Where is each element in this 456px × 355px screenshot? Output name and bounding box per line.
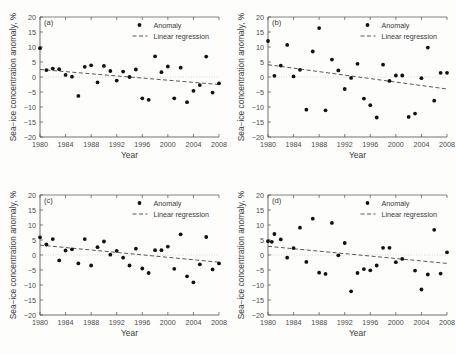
data-point (368, 103, 372, 107)
data-point (38, 46, 42, 50)
data-point (375, 116, 379, 120)
legend-marker-anomaly (366, 23, 370, 27)
data-point (44, 68, 48, 72)
data-point (115, 249, 119, 253)
x-tick-label: 2008 (439, 318, 455, 327)
linear-regression-line (40, 245, 219, 262)
data-point (292, 75, 296, 79)
data-point (266, 39, 270, 43)
subplot-panel-d: −20−15−10−505101520198019841988199219962… (228, 178, 456, 355)
data-point (279, 64, 283, 68)
data-point (134, 68, 138, 72)
x-tick-label: 1988 (83, 140, 99, 149)
data-point (413, 269, 417, 273)
y-tick-label: −10 (24, 281, 36, 290)
y-tick-label: 0 (32, 251, 36, 260)
y-tick-label: −5 (256, 266, 264, 275)
data-point (64, 73, 68, 77)
data-point (356, 62, 360, 66)
legend-label-anomaly: Anomaly (154, 21, 182, 30)
data-point (179, 232, 183, 236)
data-point (445, 71, 449, 75)
data-point (439, 272, 443, 276)
y-tick-label: −5 (28, 88, 36, 97)
x-tick-label: 1984 (286, 140, 302, 149)
data-point (172, 267, 176, 271)
x-tick-label: 2004 (185, 318, 201, 327)
data-point (134, 247, 138, 251)
y-axis-title: Sea−ice concentration anomaly, % (8, 190, 18, 319)
x-tick-label: 1984 (286, 318, 302, 327)
y-tick-label: 5 (32, 236, 36, 245)
y-tick-label: 20 (256, 191, 264, 200)
x-tick-label: 1988 (311, 140, 327, 149)
y-tick-label: −5 (28, 266, 36, 275)
x-tick-label: 1996 (362, 318, 378, 327)
data-point (211, 91, 215, 95)
plot-area-a: −20−15−10−505101520198019841988199219962… (0, 0, 228, 177)
x-tick-label: 1992 (337, 140, 353, 149)
data-point (394, 260, 398, 264)
data-point (304, 260, 308, 264)
data-point (388, 79, 392, 83)
data-point (304, 108, 308, 112)
data-point (381, 246, 385, 250)
x-tick-label: 1996 (134, 140, 150, 149)
x-tick-label: 1992 (337, 318, 353, 327)
data-point (432, 228, 436, 232)
y-tick-label: 15 (28, 206, 36, 215)
x-tick-label: 1996 (134, 318, 150, 327)
x-tick-label: 2000 (388, 318, 404, 327)
legend-label-anomaly: Anomaly (154, 199, 182, 208)
data-point (172, 96, 176, 100)
data-point (192, 280, 196, 284)
data-point (153, 248, 157, 252)
data-point (381, 63, 385, 67)
data-point (76, 262, 80, 266)
data-point (70, 247, 74, 251)
y-tick-label: 5 (260, 58, 264, 67)
data-point (153, 54, 157, 58)
data-point (362, 267, 366, 271)
y-tick-label: 10 (256, 43, 264, 52)
data-point (83, 237, 87, 241)
legend-label-anomaly: Anomaly (382, 21, 410, 30)
x-tick-label: 1980 (32, 318, 48, 327)
y-tick-label: −15 (252, 118, 264, 127)
y-tick-label: 20 (28, 13, 36, 22)
x-tick-label: 1992 (109, 140, 125, 149)
panel-label: (d) (272, 196, 282, 205)
data-point (198, 83, 202, 87)
data-point (166, 65, 170, 69)
data-point (413, 112, 417, 116)
data-point (121, 256, 125, 260)
data-point (349, 76, 353, 80)
data-point (400, 74, 404, 78)
legend-label-regression: Linear regression (154, 32, 210, 41)
data-point (368, 268, 372, 272)
x-tick-label: 1984 (58, 318, 74, 327)
data-point (420, 76, 424, 80)
data-point (217, 81, 221, 85)
y-tick-label: 20 (256, 13, 264, 22)
data-point (420, 288, 424, 292)
x-tick-label: 2000 (160, 140, 176, 149)
data-point (270, 240, 274, 244)
data-point (298, 226, 302, 230)
data-point (89, 63, 93, 67)
data-point (89, 264, 93, 268)
data-point (179, 66, 183, 70)
data-point (426, 273, 430, 277)
data-point (311, 217, 315, 221)
data-point (211, 268, 215, 272)
data-point (147, 271, 151, 275)
y-tick-label: −5 (256, 88, 264, 97)
y-axis-title: Sea−ice concentration anomaly, % (236, 190, 246, 319)
data-point (324, 272, 328, 276)
subplot-panel-b: −20−15−10−505101520198019841988199219962… (228, 0, 456, 177)
data-point (407, 115, 411, 119)
x-tick-label: 1984 (58, 140, 74, 149)
x-tick-label: 2004 (185, 140, 201, 149)
data-point (432, 99, 436, 103)
data-point (44, 243, 48, 247)
